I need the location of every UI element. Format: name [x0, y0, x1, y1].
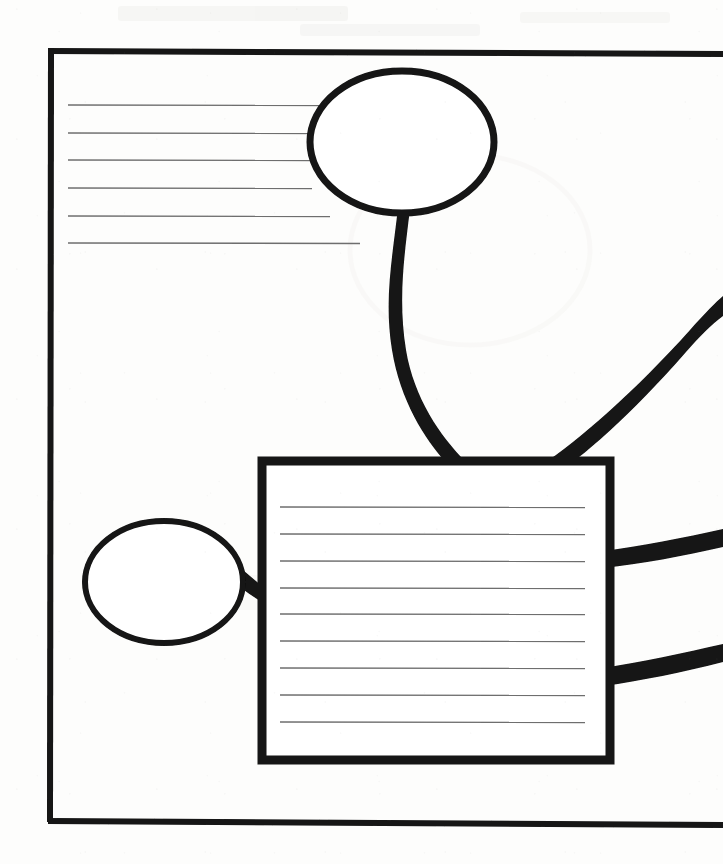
- node-left-oval[interactable]: [85, 521, 243, 643]
- rule-line: [280, 588, 585, 589]
- rule-line: [68, 105, 332, 106]
- rule-line: [68, 243, 360, 244]
- node-top-oval[interactable]: [310, 71, 494, 213]
- rule-line: [280, 561, 585, 562]
- concept-map-diagram: [0, 0, 723, 864]
- rule-line: [280, 507, 585, 508]
- rule-line: [68, 160, 313, 161]
- node-center-box[interactable]: [262, 461, 610, 760]
- rule-line: [280, 534, 585, 535]
- connector-box-to-middle-right: [604, 529, 723, 568]
- rule-line: [68, 216, 330, 217]
- rule-line: [280, 722, 585, 723]
- diagram-canvas: [0, 0, 723, 864]
- connector-top-oval-to-box: [389, 208, 466, 462]
- frame-top-edge: [49, 51, 723, 54]
- rule-line: [68, 133, 320, 134]
- rule-line: [280, 614, 585, 615]
- rule-line: [68, 188, 312, 189]
- connector-box-to-upper-right: [540, 296, 723, 476]
- rule-line: [280, 695, 585, 696]
- frame-bottom-edge: [48, 821, 723, 825]
- rule-line: [280, 641, 585, 642]
- connector-box-to-lower-right: [604, 644, 723, 686]
- rule-line: [280, 668, 585, 669]
- frame-left-edge: [50, 48, 51, 822]
